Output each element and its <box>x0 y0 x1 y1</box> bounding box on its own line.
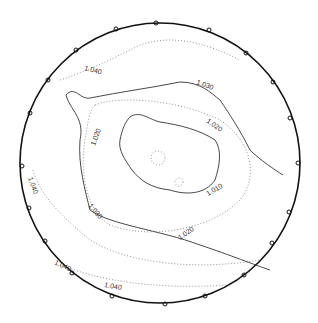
small-blob <box>175 178 183 186</box>
svg-text:1.040: 1.040 <box>84 64 103 75</box>
svg-text:1.010: 1.010 <box>205 182 224 197</box>
svg-text:1.040: 1.040 <box>54 259 73 273</box>
contour-plot: 1.040 1.030 1.020 1.020 1.010 1.040 1.03… <box>0 0 318 323</box>
center-blob <box>151 151 165 165</box>
svg-text:1.040: 1.040 <box>104 281 123 291</box>
svg-text:1.020: 1.020 <box>89 127 102 146</box>
contour-1040-top <box>60 40 240 80</box>
svg-text:1.020: 1.020 <box>177 225 195 241</box>
contour-1020 <box>83 100 250 232</box>
contour-1010 <box>120 115 220 193</box>
contour-1040-bottom <box>60 265 230 286</box>
contour-1040-left <box>33 170 260 265</box>
svg-text:1.020: 1.020 <box>205 117 223 133</box>
svg-text:1.040: 1.040 <box>27 176 40 195</box>
svg-text:1.030: 1.030 <box>87 202 104 220</box>
